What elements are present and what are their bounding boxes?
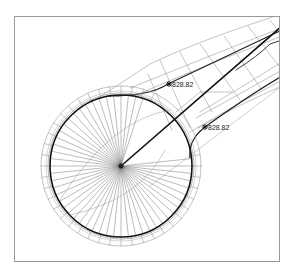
cad-drawing-canvas[interactable] <box>0 0 297 278</box>
elevation-label-1: 828.82 <box>172 81 193 88</box>
road-centerline <box>121 26 282 166</box>
elevation-label-2: 828.82 <box>208 124 229 131</box>
center-point <box>119 164 124 169</box>
construction-arc <box>60 110 170 200</box>
